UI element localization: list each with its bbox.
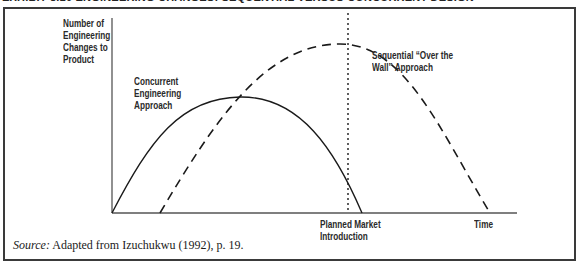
time-label: Time (474, 219, 493, 231)
source-note: Source: Adapted from Izuchukwu (1992), p… (13, 238, 244, 253)
concurrent-curve (112, 97, 362, 213)
concurrent-label: Concurrent Engineering Approach (134, 76, 181, 112)
sequential-label: Sequential “Over the Wall” Approach (372, 50, 453, 74)
y-axis-label: Number of Engineering Changes to Product (63, 18, 110, 66)
planned-market-label: Planned Market Introduction (320, 219, 381, 243)
source-text: Adapted from Izuchukwu (1992), p. 19. (50, 238, 244, 252)
source-label: Source: (13, 238, 50, 252)
